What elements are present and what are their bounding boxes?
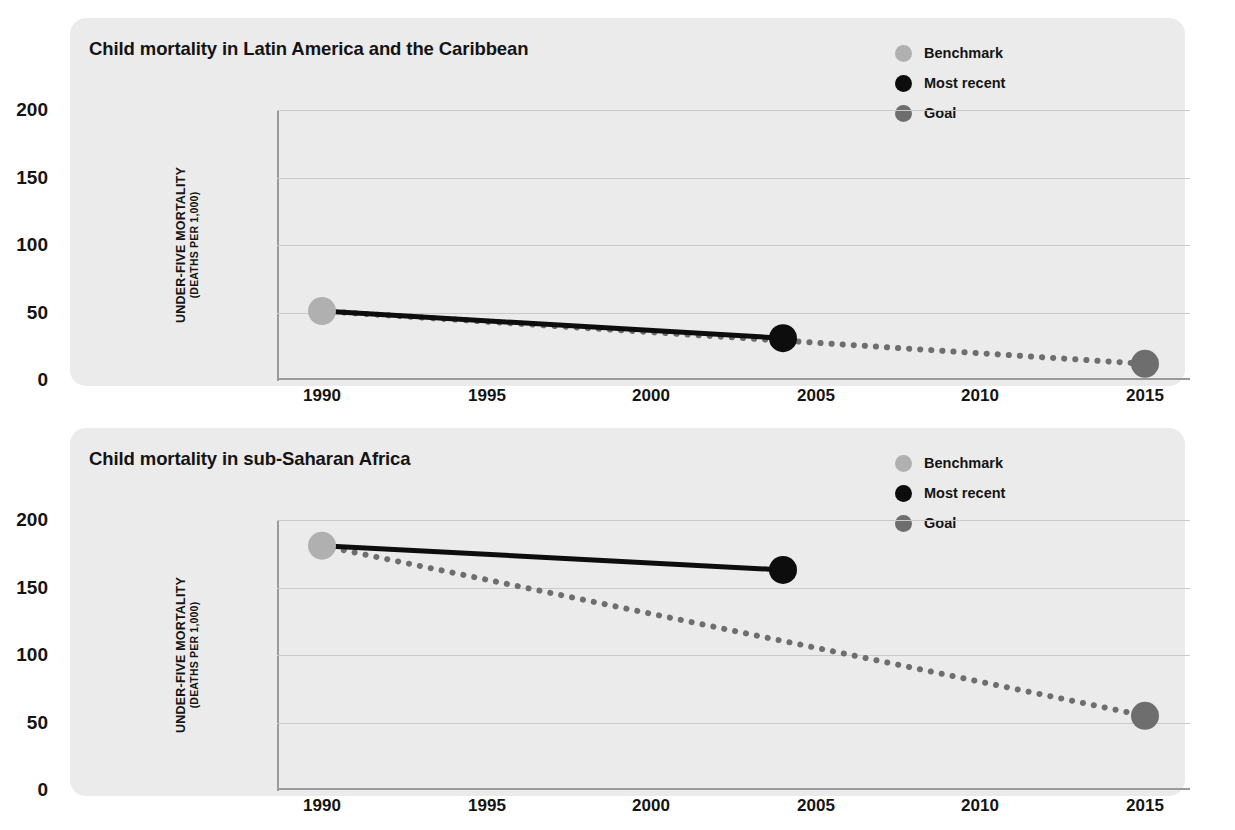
y-axis-title-latin-america: UNDER-FIVE MORTALITY (DEATHS PER 1,000) (166, 110, 208, 380)
x-tick-2000: 2000 (591, 386, 711, 406)
y-tick-0: 0 (0, 779, 48, 801)
x-tick-2005: 2005 (756, 386, 876, 406)
y-axis-title-sub: (DEATHS PER 1,000) (188, 167, 201, 323)
x-tick-2000: 2000 (591, 796, 711, 816)
y-tick-0: 0 (0, 369, 48, 391)
chart-title-latin-america: Child mortality in Latin America and the… (89, 38, 528, 60)
series-line-goal (322, 546, 1145, 716)
legend-label-most-recent: Most recent (924, 75, 1005, 91)
x-tick-1995: 1995 (427, 796, 547, 816)
legend-label-most-recent: Most recent (924, 485, 1005, 501)
marker-benchmark (308, 297, 336, 325)
y-tick-50: 50 (0, 712, 48, 734)
legend-item-benchmark: Benchmark (895, 448, 1085, 478)
marker-most-recent (769, 556, 797, 584)
legend-dot-benchmark-icon (895, 455, 912, 472)
marker-most-recent (769, 324, 797, 352)
marker-goal (1131, 702, 1159, 730)
chart-title-sub-saharan-africa: Child mortality in sub-Saharan Africa (89, 448, 410, 470)
x-tick-2015: 2015 (1085, 386, 1205, 406)
x-tick-2010: 2010 (920, 386, 1040, 406)
legend-dot-benchmark-icon (895, 45, 912, 62)
y-axis-title-main: UNDER-FIVE MORTALITY (174, 167, 188, 323)
x-tick-2010: 2010 (920, 796, 1040, 816)
y-axis-title-sub: (DEATHS PER 1,000) (188, 577, 201, 733)
series-svg-latin-america (277, 110, 1190, 381)
legend-item-benchmark: Benchmark (895, 38, 1085, 68)
legend-dot-most-recent-icon (895, 485, 912, 502)
y-tick-100: 100 (0, 234, 48, 256)
x-tick-1990: 1990 (262, 796, 382, 816)
y-tick-150: 150 (0, 167, 48, 189)
legend-label-benchmark: Benchmark (924, 45, 1003, 61)
series-svg-sub-saharan-africa (277, 520, 1190, 791)
chart-card-sub-saharan-africa: Child mortality in sub-Saharan Africa Be… (70, 428, 1185, 796)
legend-label-benchmark: Benchmark (924, 455, 1003, 471)
marker-benchmark (308, 532, 336, 560)
x-tick-1995: 1995 (427, 386, 547, 406)
series-line-most-recent (322, 311, 783, 338)
legend-dot-most-recent-icon (895, 75, 912, 92)
y-tick-200: 200 (0, 99, 48, 121)
x-tick-1990: 1990 (262, 386, 382, 406)
marker-goal (1131, 350, 1159, 378)
x-tick-2015: 2015 (1085, 796, 1205, 816)
legend-item-most-recent: Most recent (895, 68, 1085, 98)
chart-card-latin-america: Child mortality in Latin America and the… (70, 18, 1185, 386)
y-tick-150: 150 (0, 577, 48, 599)
y-tick-100: 100 (0, 644, 48, 666)
x-tick-2005: 2005 (756, 796, 876, 816)
y-tick-50: 50 (0, 302, 48, 324)
plot-area-latin-america: 200 150 100 50 0 (277, 110, 1190, 380)
series-line-most-recent (322, 546, 783, 570)
legend-item-most-recent: Most recent (895, 478, 1085, 508)
y-axis-title-sub-saharan-africa: UNDER-FIVE MORTALITY (DEATHS PER 1,000) (166, 520, 208, 790)
plot-area-sub-saharan-africa: 200 150 100 50 0 (277, 520, 1190, 790)
y-axis-title-main: UNDER-FIVE MORTALITY (174, 577, 188, 733)
y-tick-200: 200 (0, 509, 48, 531)
